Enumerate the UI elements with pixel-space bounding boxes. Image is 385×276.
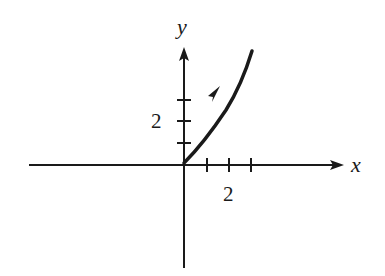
diagram-canvas: y x 2 2 <box>0 0 385 276</box>
y-tick-label-2: 2 <box>151 109 162 133</box>
plot-svg: y x 2 2 <box>0 0 385 276</box>
x-tick-label-2: 2 <box>223 182 234 206</box>
x-axis-label: x <box>350 152 361 177</box>
curve-direction-arrow-icon <box>208 86 220 102</box>
y-axis-label: y <box>175 14 187 39</box>
parametric-curve <box>184 51 252 163</box>
